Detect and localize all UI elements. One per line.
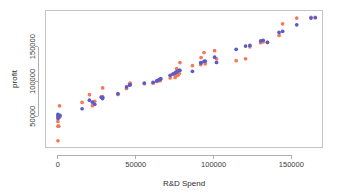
x-tick-label: 150000 xyxy=(279,160,304,169)
data-point xyxy=(234,59,238,63)
data-point xyxy=(128,83,132,87)
data-point xyxy=(57,124,61,128)
data-point xyxy=(88,93,92,97)
x-tick-label: 100000 xyxy=(201,160,226,169)
data-point xyxy=(277,30,281,34)
data-point xyxy=(261,38,265,42)
y-axis-title: profit xyxy=(10,69,19,88)
series-predicted xyxy=(56,16,317,120)
plot-canvas: 050000100000150000 50000100000150000 R&D… xyxy=(0,0,337,194)
scatter-plot-figure: 050000100000150000 50000100000150000 R&D… xyxy=(0,0,337,194)
x-tick-label: 0 xyxy=(56,160,60,169)
data-point xyxy=(202,51,206,55)
data-point xyxy=(215,61,219,65)
data-point xyxy=(234,47,238,51)
data-point xyxy=(213,55,217,59)
x-axis: 050000100000150000 xyxy=(56,155,304,169)
data-points xyxy=(56,15,317,142)
x-axis-title: R&D Spend xyxy=(163,179,205,188)
data-point xyxy=(80,107,84,111)
data-point xyxy=(151,80,155,84)
data-point xyxy=(93,102,97,106)
data-point xyxy=(244,57,248,61)
data-point xyxy=(309,16,313,20)
data-point xyxy=(58,113,62,117)
data-point xyxy=(191,64,195,68)
data-point xyxy=(142,81,146,85)
data-point xyxy=(281,29,285,33)
data-point xyxy=(203,59,207,63)
y-tick-label: 150000 xyxy=(28,34,37,59)
data-point xyxy=(295,16,299,20)
data-point xyxy=(58,104,62,108)
data-point xyxy=(248,44,252,48)
data-point xyxy=(178,61,182,65)
data-point xyxy=(88,98,92,102)
data-point xyxy=(116,92,120,96)
data-point xyxy=(56,139,60,143)
data-point xyxy=(266,41,270,45)
data-point xyxy=(199,56,203,60)
data-point xyxy=(159,77,163,81)
data-point xyxy=(191,69,195,73)
series-actual xyxy=(56,15,317,142)
data-point xyxy=(80,101,84,105)
y-axis: 50000100000150000 xyxy=(28,34,38,126)
x-tick-label: 50000 xyxy=(125,160,146,169)
data-point xyxy=(281,22,285,26)
data-point xyxy=(101,86,105,90)
y-tick-label: 100000 xyxy=(28,69,37,94)
data-point xyxy=(313,16,317,20)
data-point xyxy=(244,44,248,48)
data-point xyxy=(101,96,105,100)
data-point xyxy=(213,49,217,53)
data-point xyxy=(178,68,182,72)
data-point xyxy=(295,23,299,27)
y-tick-label: 50000 xyxy=(28,106,37,127)
